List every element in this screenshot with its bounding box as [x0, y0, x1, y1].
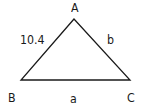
vertex-label-b: B: [8, 91, 16, 104]
triangle-abc: [21, 19, 130, 80]
triangle-diagram: A B C 10.4 b a: [0, 0, 142, 109]
side-label-ab: 10.4: [20, 33, 45, 46]
vertex-label-a: A: [71, 1, 79, 14]
side-label-bc: a: [70, 92, 77, 105]
side-label-ac: b: [107, 33, 114, 46]
vertex-label-c: C: [127, 91, 135, 104]
